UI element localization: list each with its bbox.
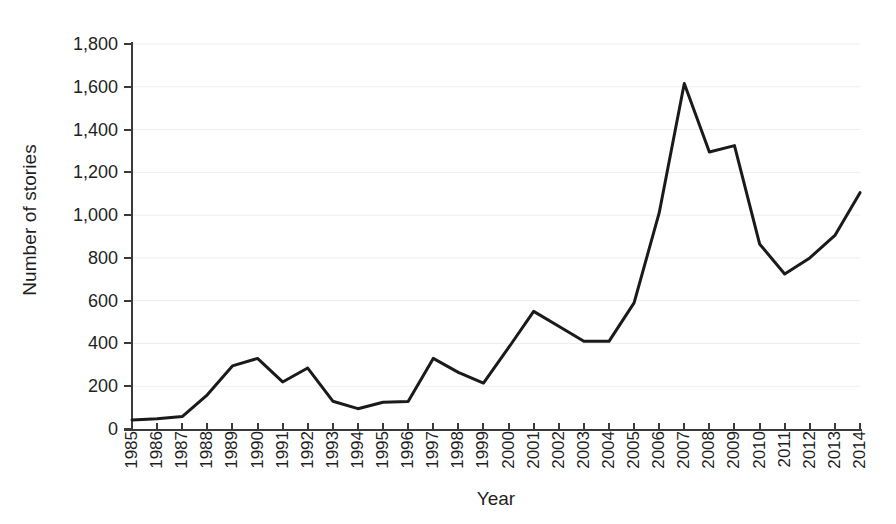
y-axis-tick-mark — [124, 257, 133, 259]
x-axis-tick-label-text: 1992 — [299, 431, 317, 473]
x-axis-tick-label-text: 2007 — [675, 431, 693, 473]
y-axis-tick-label: 1,800 — [73, 34, 118, 55]
x-axis-tick-mark — [131, 423, 133, 431]
x-axis-tick-label: 1985 — [123, 431, 141, 473]
x-axis-tick-label-text: 1997 — [424, 431, 442, 473]
x-axis-tick-label-text: 2002 — [550, 431, 568, 473]
y-axis-tick-label: 200 — [88, 376, 118, 397]
x-axis-tick-label-text: 2003 — [575, 431, 593, 473]
x-axis-tick-label-text: 2013 — [826, 431, 844, 473]
x-axis-tick-mark — [282, 423, 284, 431]
y-axis-tick-mark — [124, 129, 133, 131]
x-axis-tick-label: 1993 — [324, 431, 342, 473]
x-axis-tick-mark — [633, 423, 635, 431]
x-axis-tick-label: 2007 — [675, 431, 693, 473]
y-axis-tick-label: 800 — [88, 247, 118, 268]
x-axis-tick-label-text: 1987 — [173, 431, 191, 473]
y-axis-tick-mark — [124, 43, 133, 45]
x-axis-tick-label: 2001 — [525, 431, 543, 473]
x-axis-tick-mark — [859, 423, 861, 431]
y-axis-title: Number of stories — [0, 0, 60, 440]
y-axis-tick-label: 600 — [88, 290, 118, 311]
x-axis-tick-label-text: 1996 — [399, 431, 417, 473]
x-axis-tick-label-text: 2012 — [801, 431, 819, 473]
x-axis-tick-label-text: 1994 — [349, 431, 367, 473]
x-axis-tick-mark — [181, 423, 183, 431]
x-axis-tick-mark — [784, 423, 786, 431]
x-axis-tick-labels: 1985198619871988198919901991199219931994… — [0, 431, 896, 491]
x-axis-tick-label-text: 1991 — [274, 431, 292, 473]
x-axis-tick-mark — [558, 423, 560, 431]
x-axis-tick-label: 2003 — [575, 431, 593, 473]
y-axis-tick-label: 400 — [88, 333, 118, 354]
x-axis-tick-mark — [307, 423, 309, 431]
x-axis-tick-label: 1990 — [249, 431, 267, 473]
x-axis-tick-mark — [206, 423, 208, 431]
x-axis-tick-label: 1998 — [449, 431, 467, 473]
x-axis-tick-label-text: 1985 — [123, 431, 141, 473]
x-axis-tick-label-text: 1993 — [324, 431, 342, 473]
x-axis-tick-label-text: 2001 — [525, 431, 543, 473]
x-axis-tick-mark — [457, 423, 459, 431]
x-axis-tick-mark — [759, 423, 761, 431]
y-axis-title-text: Number of stories — [19, 144, 41, 296]
line-chart-figure: Number of stories 02004006008001,0001,20… — [0, 0, 896, 524]
x-axis-tick-mark — [382, 423, 384, 431]
x-axis-tick-label: 1999 — [474, 431, 492, 473]
x-axis-tick-label-text: 1998 — [449, 431, 467, 473]
x-axis-tick-mark — [231, 423, 233, 431]
x-axis-tick-label: 1992 — [299, 431, 317, 473]
data-series-group — [132, 84, 860, 420]
x-axis-tick-label-text: 2005 — [625, 431, 643, 473]
x-axis-tick-label: 2006 — [650, 431, 668, 473]
x-axis-tick-label: 2010 — [751, 431, 769, 473]
x-axis-title: Year — [132, 488, 860, 510]
y-axis-tick-mark — [124, 300, 133, 302]
x-axis-tick-mark — [608, 423, 610, 431]
y-axis-tick-label: 1,400 — [73, 119, 118, 140]
x-axis-tick-mark — [708, 423, 710, 431]
x-axis-tick-label: 2002 — [550, 431, 568, 473]
x-axis-tick-mark — [156, 423, 158, 431]
x-axis-tick-mark — [658, 423, 660, 431]
x-axis-tick-label-text: 2004 — [600, 431, 618, 473]
y-axis-tick-mark — [124, 342, 133, 344]
x-axis-tick-label: 1991 — [274, 431, 292, 473]
x-axis-tick-label: 1995 — [374, 431, 392, 473]
x-axis-tick-label: 1988 — [198, 431, 216, 473]
x-axis-tick-mark — [533, 423, 535, 431]
x-axis-tick-mark — [332, 423, 334, 431]
x-axis-tick-label-text: 1999 — [474, 431, 492, 473]
plot-area — [132, 44, 860, 429]
x-axis-tick-mark — [508, 423, 510, 431]
y-axis-tick-label: 1,600 — [73, 76, 118, 97]
x-axis-tick-label: 1989 — [223, 431, 241, 473]
x-axis-tick-label: 2000 — [500, 431, 518, 473]
y-axis-tick-label: 1,000 — [73, 205, 118, 226]
y-axis-tick-mark — [124, 171, 133, 173]
x-axis-tick-label-text: 2009 — [725, 431, 743, 473]
x-axis-tick-mark — [834, 423, 836, 431]
x-axis-tick-label: 1987 — [173, 431, 191, 473]
x-axis-tick-mark — [482, 423, 484, 431]
y-axis-tick-mark — [124, 214, 133, 216]
x-axis-tick-label-text: 2006 — [650, 431, 668, 473]
x-axis-tick-mark — [257, 423, 259, 431]
x-axis-tick-label: 2005 — [625, 431, 643, 473]
data-line — [132, 84, 860, 420]
x-axis-tick-mark — [809, 423, 811, 431]
x-axis-tick-mark — [407, 423, 409, 431]
x-axis-tick-label-text: 1988 — [198, 431, 216, 473]
x-axis-tick-label-text: 2008 — [700, 431, 718, 473]
x-axis-tick-label: 1996 — [399, 431, 417, 473]
x-axis-tick-label: 2011 — [776, 431, 794, 472]
x-axis-tick-mark — [583, 423, 585, 431]
plot-svg — [132, 44, 860, 429]
y-axis-tick-labels: 02004006008001,0001,2001,4001,6001,800 — [58, 0, 126, 440]
x-axis-tick-label: 2009 — [725, 431, 743, 473]
x-axis-tick-mark — [357, 423, 359, 431]
x-axis-tick-label: 2013 — [826, 431, 844, 473]
x-axis-tick-label-text: 1986 — [148, 431, 166, 473]
y-axis-tick-mark — [124, 86, 133, 88]
x-axis-tick-label-text: 1995 — [374, 431, 392, 473]
